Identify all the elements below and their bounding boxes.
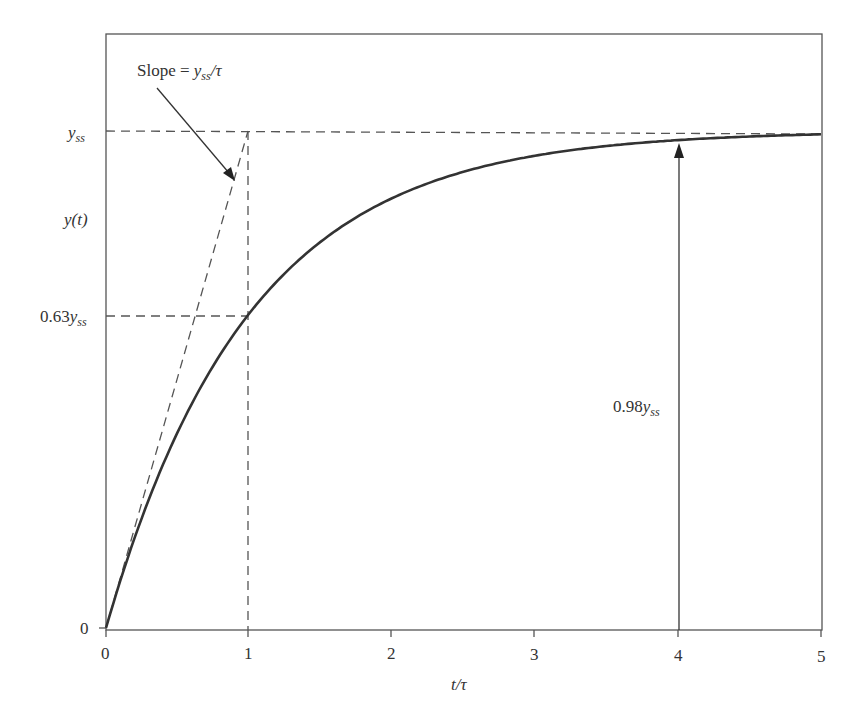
slope-arrow-head bbox=[223, 167, 235, 181]
yss-reference-line bbox=[106, 131, 822, 134]
slope-arrow-line bbox=[157, 88, 229, 173]
x-tick-label-3: 3 bbox=[530, 645, 539, 664]
x-tick-label-0: 0 bbox=[101, 644, 110, 663]
y063-label: 0.63yss bbox=[40, 307, 87, 329]
chart: Slope = yss/τ yss y(t) 0.63yss 0 0.98yss… bbox=[0, 0, 867, 723]
plot-frame bbox=[106, 34, 822, 630]
y098-arrow-head bbox=[674, 143, 684, 158]
x-tick-label-2: 2 bbox=[387, 644, 396, 663]
response-curve bbox=[106, 134, 821, 628]
x-tick-label-5: 5 bbox=[817, 647, 826, 666]
initial-slope-tangent bbox=[106, 131, 248, 628]
x-axis-label: t/τ bbox=[451, 675, 467, 694]
yss-label: yss bbox=[66, 123, 85, 145]
y098-label: 0.98yss bbox=[613, 397, 660, 419]
slope-annotation: Slope = yss/τ bbox=[137, 61, 222, 83]
y-tick-label-0: 0 bbox=[80, 619, 89, 638]
x-tick-label-4: 4 bbox=[674, 646, 683, 665]
x-tick-labels: 0 1 2 3 4 5 bbox=[101, 644, 826, 666]
x-tick-label-1: 1 bbox=[244, 644, 253, 663]
x-tick-marks bbox=[106, 630, 821, 637]
y-axis-label: y(t) bbox=[62, 210, 88, 229]
